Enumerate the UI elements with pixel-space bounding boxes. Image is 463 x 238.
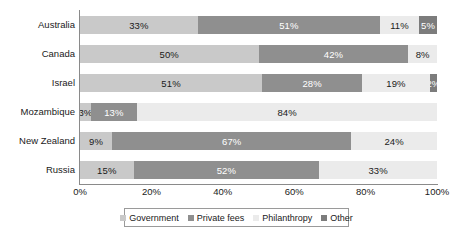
stacked-bar-chart: AustraliaCanadaIsraelMozambiqueNew Zeala… bbox=[0, 0, 463, 238]
bar-segment-label: 84% bbox=[277, 107, 296, 118]
x-tick-label: 100% bbox=[425, 186, 449, 197]
bar-segment: 33% bbox=[319, 161, 437, 179]
bar-segment: 11% bbox=[380, 16, 419, 34]
bar-segment-label: 52% bbox=[217, 165, 236, 176]
bar-segment: 3% bbox=[80, 103, 91, 121]
category-label: Russia bbox=[1, 161, 75, 179]
bar-segment: 42% bbox=[259, 45, 409, 63]
x-tick-label: 80% bbox=[356, 186, 375, 197]
x-tick-label: 60% bbox=[285, 186, 304, 197]
bar-segment: 84% bbox=[137, 103, 437, 121]
plot-area: 33%51%11%5%50%42%8%51%28%19%2%3%13%84%9%… bbox=[80, 10, 437, 184]
bar-segment: 28% bbox=[262, 74, 362, 92]
bar-segment-label: 5% bbox=[421, 20, 435, 31]
bar-segment: 15% bbox=[80, 161, 134, 179]
legend-swatch-icon bbox=[321, 215, 327, 221]
bar-segment-label: 51% bbox=[279, 20, 298, 31]
legend-item[interactable]: Other bbox=[321, 213, 353, 223]
chart-legend: GovernmentPrivate feesPhilanthropyOther bbox=[124, 208, 349, 227]
bar-segment: 9% bbox=[80, 132, 112, 150]
bar-row: 50%42%8% bbox=[80, 45, 437, 63]
legend-label: Government bbox=[129, 213, 179, 223]
legend-swatch-icon bbox=[120, 215, 126, 221]
bar-segment-label: 2% bbox=[430, 78, 437, 89]
x-axis-line bbox=[79, 184, 438, 185]
x-tick-label: 40% bbox=[213, 186, 232, 197]
category-label: Israel bbox=[1, 74, 75, 92]
bar-segment-label: 19% bbox=[386, 78, 405, 89]
bar-segment-label: 3% bbox=[80, 107, 91, 118]
bar-segment: 5% bbox=[419, 16, 437, 34]
bar-segment: 52% bbox=[134, 161, 320, 179]
bar-segment-label: 15% bbox=[97, 165, 116, 176]
bar-row: 33%51%11%5% bbox=[80, 16, 437, 34]
bar-segment: 51% bbox=[80, 74, 262, 92]
bar-row: 9%67%24% bbox=[80, 132, 437, 150]
bar-segment-label: 8% bbox=[416, 49, 430, 60]
bar-row: 15%52%33% bbox=[80, 161, 437, 179]
bar-segment-label: 50% bbox=[160, 49, 179, 60]
category-label: New Zealand bbox=[1, 132, 75, 150]
bar-segment: 2% bbox=[430, 74, 437, 92]
x-tick-label: 20% bbox=[142, 186, 161, 197]
legend-swatch-icon bbox=[253, 215, 259, 221]
bar-segment-label: 9% bbox=[89, 136, 103, 147]
bar-row: 51%28%19%2% bbox=[80, 74, 437, 92]
bar-segment: 50% bbox=[80, 45, 259, 63]
bar-segment: 19% bbox=[362, 74, 430, 92]
legend-label: Other bbox=[330, 213, 353, 223]
bar-segment-label: 11% bbox=[390, 20, 409, 31]
legend-label: Philanthropy bbox=[262, 213, 312, 223]
x-tick-label: 0% bbox=[73, 186, 87, 197]
bar-segment: 67% bbox=[112, 132, 351, 150]
bar-segment: 13% bbox=[91, 103, 137, 121]
legend-swatch-icon bbox=[188, 215, 194, 221]
bar-segment-label: 28% bbox=[302, 78, 321, 89]
bar-segment-label: 33% bbox=[368, 165, 387, 176]
bar-row: 3%13%84% bbox=[80, 103, 437, 121]
bar-segment: 8% bbox=[408, 45, 437, 63]
category-label: Australia bbox=[1, 16, 75, 34]
bar-segment: 33% bbox=[80, 16, 198, 34]
bar-segment-label: 42% bbox=[324, 49, 343, 60]
bar-segment-label: 33% bbox=[129, 20, 148, 31]
legend-label: Private fees bbox=[197, 213, 245, 223]
bar-segment-label: 13% bbox=[104, 107, 123, 118]
category-axis-labels: AustraliaCanadaIsraelMozambiqueNew Zeala… bbox=[0, 10, 75, 184]
legend-item[interactable]: Private fees bbox=[188, 213, 245, 223]
bar-segment: 24% bbox=[351, 132, 437, 150]
legend-item[interactable]: Government bbox=[120, 213, 179, 223]
bar-segment-label: 51% bbox=[161, 78, 180, 89]
bar-segment: 51% bbox=[198, 16, 380, 34]
legend-item[interactable]: Philanthropy bbox=[253, 213, 312, 223]
x-axis-tick-labels: 0%20%40%60%80%100% bbox=[80, 186, 437, 200]
bar-segment-label: 24% bbox=[384, 136, 403, 147]
category-label: Canada bbox=[1, 45, 75, 63]
category-label: Mozambique bbox=[1, 103, 75, 121]
bar-segment-label: 67% bbox=[222, 136, 241, 147]
